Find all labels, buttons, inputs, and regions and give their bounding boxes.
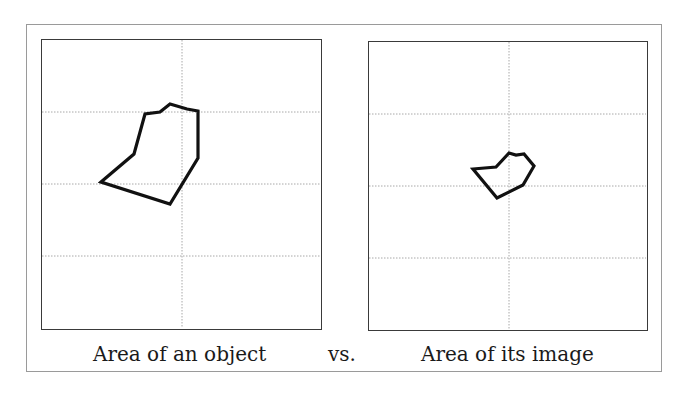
image-plot bbox=[369, 42, 646, 329]
object-polygon bbox=[101, 104, 198, 204]
image-caption: Area of its image bbox=[421, 344, 594, 364]
grid-lines bbox=[369, 42, 646, 329]
object-panel bbox=[41, 39, 322, 330]
object-caption: Area of an object bbox=[93, 344, 266, 364]
versus-caption: vs. bbox=[328, 344, 356, 364]
object-plot bbox=[42, 40, 320, 328]
image-panel bbox=[368, 41, 648, 331]
image-polygon bbox=[473, 153, 534, 198]
